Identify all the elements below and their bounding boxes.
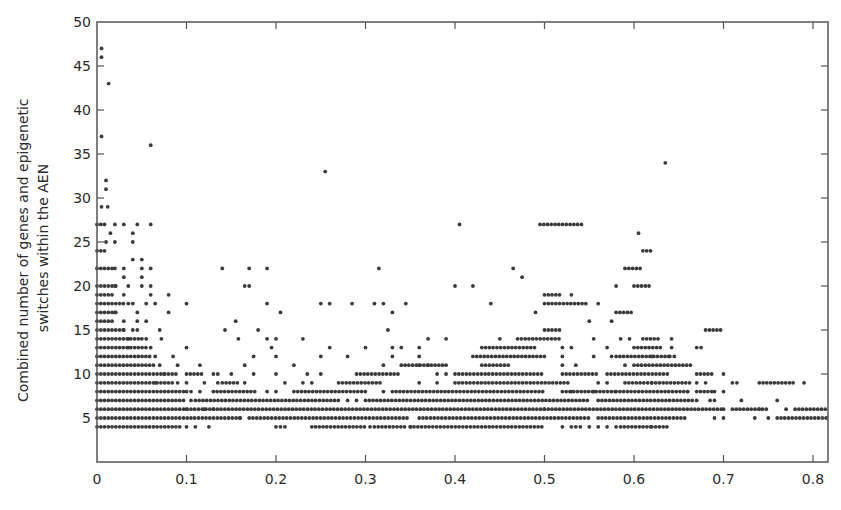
- data-point: [540, 372, 544, 376]
- data-point: [663, 407, 667, 411]
- data-point: [505, 355, 509, 359]
- data-point: [171, 355, 175, 359]
- data-point: [574, 399, 578, 403]
- data-point: [103, 381, 107, 385]
- data-point: [336, 407, 340, 411]
- data-point: [314, 425, 318, 429]
- data-point: [118, 302, 122, 306]
- data-point: [309, 407, 313, 411]
- data-point: [436, 390, 440, 394]
- data-point: [408, 425, 412, 429]
- data-point: [634, 381, 638, 385]
- data-point: [670, 337, 674, 341]
- data-point: [148, 355, 152, 359]
- data-point: [764, 407, 768, 411]
- data-point: [772, 381, 776, 385]
- data-point: [416, 425, 420, 429]
- data-point: [749, 407, 753, 411]
- data-point: [634, 267, 638, 271]
- data-point: [270, 346, 274, 350]
- data-point: [790, 416, 794, 420]
- data-point: [525, 399, 529, 403]
- data-point: [546, 337, 550, 341]
- data-point: [121, 346, 125, 350]
- data-point: [114, 390, 118, 394]
- data-point: [370, 372, 374, 376]
- data-point: [719, 328, 723, 332]
- data-point: [359, 381, 363, 385]
- data-point: [572, 223, 576, 227]
- data-point: [131, 302, 135, 306]
- data-point: [514, 425, 518, 429]
- data-point: [227, 399, 231, 403]
- data-point: [537, 390, 541, 394]
- data-point: [481, 416, 485, 420]
- data-point: [686, 390, 690, 394]
- data-point: [683, 416, 687, 420]
- data-point: [525, 425, 529, 429]
- data-point: [329, 425, 333, 429]
- data-point: [561, 390, 565, 394]
- data-point: [552, 399, 556, 403]
- data-point: [114, 355, 118, 359]
- data-point: [506, 399, 510, 403]
- data-point: [242, 399, 246, 403]
- data-point: [272, 407, 276, 411]
- data-point: [385, 407, 389, 411]
- data-point: [580, 407, 584, 411]
- data-point: [121, 425, 125, 429]
- data-point: [174, 372, 178, 376]
- data-point: [622, 355, 626, 359]
- data-point: [402, 390, 406, 394]
- data-point: [557, 337, 561, 341]
- data-point: [598, 390, 602, 394]
- data-point: [428, 399, 432, 403]
- data-point: [596, 425, 600, 429]
- data-point: [421, 416, 425, 420]
- data-point: [136, 372, 140, 376]
- data-point: [675, 399, 679, 403]
- data-point: [133, 407, 137, 411]
- data-point: [525, 372, 529, 376]
- data-point: [197, 407, 201, 411]
- data-point: [644, 355, 648, 359]
- data-point: [766, 416, 770, 420]
- data-point: [110, 416, 114, 420]
- data-point: [362, 372, 366, 376]
- data-point: [182, 399, 186, 403]
- data-point: [234, 319, 238, 323]
- data-point: [391, 355, 395, 359]
- data-point: [223, 407, 227, 411]
- data-point: [319, 302, 323, 306]
- data-point: [121, 416, 125, 420]
- data-point: [502, 372, 506, 376]
- data-point: [113, 284, 117, 288]
- data-point: [656, 416, 660, 420]
- data-point: [321, 425, 325, 429]
- data-point: [560, 416, 564, 420]
- data-point: [163, 425, 167, 429]
- data-point: [708, 407, 712, 411]
- data-point: [619, 337, 623, 341]
- data-point: [499, 346, 503, 350]
- data-point: [498, 372, 502, 376]
- data-point: [189, 416, 193, 420]
- data-point: [121, 381, 125, 385]
- data-point: [668, 416, 672, 420]
- data-point: [641, 249, 645, 253]
- data-point: [106, 311, 110, 315]
- data-point: [538, 223, 542, 227]
- data-point: [230, 390, 234, 394]
- data-point: [642, 381, 646, 385]
- data-point: [153, 302, 157, 306]
- data-point: [198, 390, 202, 394]
- data-point: [201, 399, 205, 403]
- data-point: [133, 425, 137, 429]
- data-point: [252, 372, 256, 376]
- data-point: [633, 407, 637, 411]
- data-point: [572, 372, 576, 376]
- data-point: [140, 337, 144, 341]
- data-point: [319, 355, 323, 359]
- data-point: [625, 407, 629, 411]
- data-point: [596, 416, 600, 420]
